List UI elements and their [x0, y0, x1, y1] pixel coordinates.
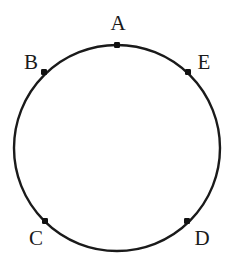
point-marker-d: [184, 218, 190, 224]
point-marker-c: [42, 218, 48, 224]
point-marker-e: [185, 69, 191, 75]
point-marker-b: [41, 69, 47, 75]
point-markers-group: [41, 42, 191, 224]
point-label-b: B: [24, 52, 38, 73]
point-label-d: D: [194, 228, 209, 249]
point-marker-a: [114, 42, 120, 48]
point-label-e: E: [198, 52, 211, 73]
point-label-c: C: [29, 228, 43, 249]
point-label-a: A: [110, 13, 125, 34]
circle-diagram: ABCDE: [0, 0, 235, 276]
